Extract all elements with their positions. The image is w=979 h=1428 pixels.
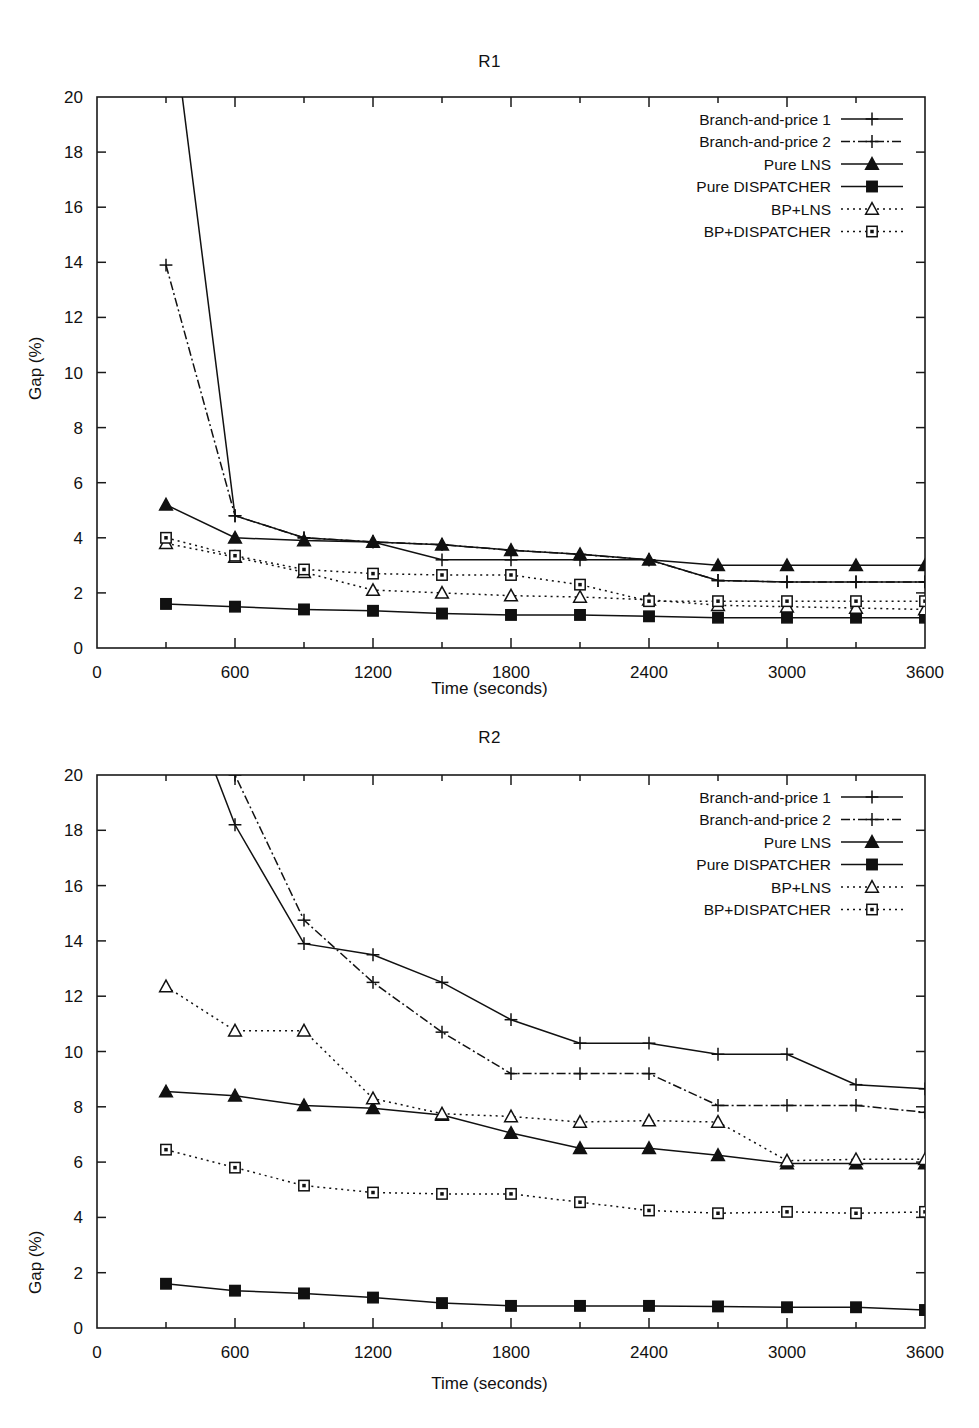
legend-item[interactable]: Branch-and-price 2 <box>699 133 903 150</box>
series-bp-dispatcher <box>161 1144 930 1218</box>
data-marker <box>574 1067 587 1080</box>
series-pure-lns <box>160 1085 932 1168</box>
legend-sample-marker <box>867 226 877 236</box>
series-bp-lns <box>160 537 932 615</box>
legend-item[interactable]: Pure DISPATCHER <box>696 856 903 873</box>
legend-item[interactable]: BP+DISPATCHER <box>704 223 903 240</box>
legend-label: BP+DISPATCHER <box>704 223 831 240</box>
data-marker <box>782 612 792 622</box>
series-line <box>166 538 925 601</box>
data-marker <box>781 575 794 588</box>
x-tick-label: 3600 <box>906 663 944 682</box>
legend-sample-marker <box>866 813 879 826</box>
data-marker <box>850 575 863 588</box>
data-marker <box>712 574 725 587</box>
data-marker <box>919 1106 932 1119</box>
series-branch-and-price-1 <box>166 0 931 588</box>
y-tick-label: 6 <box>74 1153 83 1172</box>
series-line <box>166 1284 925 1310</box>
data-marker <box>851 1302 861 1312</box>
data-marker <box>782 1207 792 1217</box>
legend-item[interactable]: BP+DISPATCHER <box>704 901 903 918</box>
data-marker <box>919 1082 932 1095</box>
data-marker <box>851 596 861 606</box>
data-marker <box>230 1285 240 1295</box>
series-pure-dispatcher <box>161 1279 930 1316</box>
legend-label: Pure LNS <box>764 834 831 851</box>
data-marker <box>160 259 173 272</box>
data-marker <box>229 769 242 782</box>
x-tick-label: 0 <box>92 663 101 682</box>
y-tick-label: 10 <box>64 1043 83 1062</box>
data-marker <box>713 1208 723 1218</box>
legend-sample-marker <box>866 203 879 215</box>
data-marker <box>575 610 585 620</box>
data-marker <box>782 1302 792 1312</box>
data-marker <box>368 1292 378 1302</box>
y-tick-label: 18 <box>64 143 83 162</box>
legend-label: BP+LNS <box>771 879 831 896</box>
data-marker <box>506 1301 516 1311</box>
legend-label: Branch-and-price 2 <box>699 811 831 828</box>
legend-sample-marker <box>867 181 877 191</box>
legend-sample-marker <box>866 881 879 893</box>
data-marker <box>160 980 173 992</box>
data-marker <box>575 1197 585 1207</box>
x-tick-label: 2400 <box>630 1343 668 1362</box>
legend-sample-marker <box>866 791 879 804</box>
data-marker <box>368 1187 378 1197</box>
y-tick-label: 8 <box>74 1098 83 1117</box>
data-marker <box>160 498 173 510</box>
data-marker <box>506 610 516 620</box>
legend-item[interactable]: Branch-and-price 1 <box>699 111 903 128</box>
chart-figure-r1: R1 Gap (%) Time (seconds) 02468101214161… <box>0 0 979 714</box>
x-tick-label: 600 <box>221 1343 249 1362</box>
series-line <box>166 1092 925 1164</box>
x-tick-label: 1800 <box>492 663 530 682</box>
y-tick-label: 12 <box>64 308 83 327</box>
legend-item[interactable]: Pure LNS <box>764 834 903 851</box>
y-tick-label: 10 <box>64 364 83 383</box>
legend-label: Branch-and-price 2 <box>699 133 831 150</box>
legend-item[interactable]: Branch-and-price 1 <box>699 789 903 806</box>
legend-sample-marker <box>866 113 879 126</box>
y-tick-label: 20 <box>64 766 83 785</box>
x-tick-label: 600 <box>221 663 249 682</box>
x-tick-label: 2400 <box>630 663 668 682</box>
data-marker <box>782 596 792 606</box>
legend-label: Branch-and-price 1 <box>699 789 831 806</box>
data-marker <box>436 976 449 989</box>
data-marker <box>161 1279 171 1289</box>
data-marker <box>229 818 242 831</box>
legend-label: BP+DISPATCHER <box>704 901 831 918</box>
data-marker <box>299 1180 309 1190</box>
data-marker <box>644 1205 654 1215</box>
legend-item[interactable]: BP+LNS <box>771 201 903 218</box>
legend-sample-marker <box>867 859 877 869</box>
legend-item[interactable]: BP+LNS <box>771 879 903 896</box>
data-marker <box>920 596 930 606</box>
series-line <box>166 505 925 566</box>
data-marker <box>643 1114 656 1126</box>
data-marker <box>712 1048 725 1061</box>
legend-label: Pure DISPATCHER <box>696 178 831 195</box>
series-pure-dispatcher <box>161 599 930 623</box>
plot-area-r2: 0246810121416182006001200180024003000360… <box>0 714 979 1428</box>
legend-item[interactable]: Branch-and-price 2 <box>699 811 903 828</box>
series-bp-dispatcher <box>161 533 930 607</box>
legend-label: Pure LNS <box>764 156 831 173</box>
y-tick-label: 14 <box>64 932 83 951</box>
chart-figure-r2: R2 Gap (%) Time (seconds) 02468101214161… <box>0 714 979 1428</box>
data-marker <box>850 1078 863 1091</box>
data-marker <box>230 551 240 561</box>
legend-item[interactable]: Pure DISPATCHER <box>696 178 903 195</box>
y-tick-label: 0 <box>74 639 83 658</box>
data-marker <box>230 1162 240 1172</box>
y-tick-label: 6 <box>74 474 83 493</box>
legend-sample-marker <box>867 904 877 914</box>
legend-item[interactable]: Pure LNS <box>764 156 903 173</box>
data-marker <box>436 1026 449 1039</box>
data-marker <box>299 604 309 614</box>
plot-area-r1: 0246810121416182006001200180024003000360… <box>0 0 979 714</box>
data-marker <box>713 596 723 606</box>
